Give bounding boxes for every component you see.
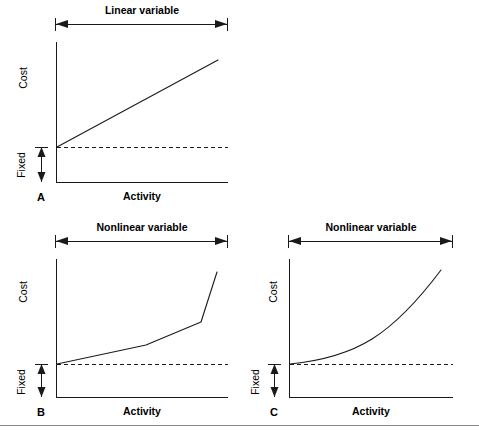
panel-a: Linear variable Cost Fixed Activity A [15,4,228,203]
panel-b-x-axis-label: Activity [123,405,161,417]
panel-c-span-arrow [289,235,453,248]
panel-b-span-arrow [56,235,228,248]
panel-a-span-arrow [56,18,228,31]
panel-a-cost-line [57,60,218,147]
panel-c-fixed-range-arrow [268,364,281,397]
panel-c-cost-curve [290,270,441,364]
panel-c-span-label: Nonlinear variable [325,221,416,233]
panel-b-letter: B [37,406,45,418]
panel-b-cost-line [57,272,217,364]
cost-behavior-figure: Linear variable Cost Fixed Activity A [0,0,479,433]
panel-b: Nonlinear variable Cost Fixed Activity B [15,221,228,418]
panel-b-fixed-label: Fixed [15,369,27,395]
panel-c: Nonlinear variable Cost Fixed Activity C [249,221,453,418]
panel-b-fixed-range-arrow [35,364,48,397]
panel-b-y-axis-label: Cost [17,281,29,303]
panel-a-x-axis-label: Activity [123,190,161,202]
panel-c-fixed-label: Fixed [249,369,261,395]
panel-b-span-label: Nonlinear variable [96,221,187,233]
panel-a-fixed-label: Fixed [15,152,27,178]
panel-c-x-axis-label: Activity [352,405,390,417]
panel-c-letter: C [270,406,278,418]
panel-a-fixed-range-arrow [35,147,48,182]
panel-a-letter: A [37,191,45,203]
panel-a-y-axis-label: Cost [17,67,29,89]
panel-c-y-axis-label: Cost [267,281,279,303]
panel-a-span-label: Linear variable [105,4,179,16]
figure-canvas: Linear variable Cost Fixed Activity A [0,0,479,433]
